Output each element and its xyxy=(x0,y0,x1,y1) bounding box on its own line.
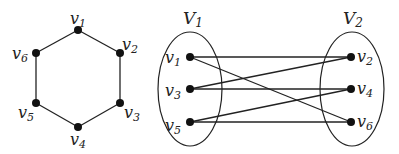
hex-edge-v6-v1 xyxy=(36,30,78,53)
hex-vertex-label-v3: v3 xyxy=(124,103,140,124)
bip-vertex-v3 xyxy=(186,85,194,93)
hex-vertex-v6 xyxy=(32,49,40,57)
bip-vertex-label-v2: v2 xyxy=(357,47,373,68)
bip-vertex-label-v1: v1 xyxy=(165,48,181,69)
hex-edge-v3-v4 xyxy=(78,103,120,127)
bipartite-graph: V1V2v1v3v5v2v4v6 xyxy=(158,8,384,146)
graph-figure: v1v2v3v4v5v6 V1V2v1v3v5v2v4v6 xyxy=(0,0,399,154)
bip-vertex-v4 xyxy=(347,85,355,93)
bip-vertex-v6 xyxy=(347,118,355,126)
bip-vertex-label-v3: v3 xyxy=(165,81,181,102)
bip-vertex-label-v4: v4 xyxy=(357,79,373,100)
bip-edge-v3-v2 xyxy=(190,57,351,89)
bip-edge-v5-v4 xyxy=(190,89,351,122)
bip-vertex-v5 xyxy=(186,118,194,126)
set-label-v1: V1 xyxy=(183,8,203,30)
hexagon-cycle-graph: v1v2v3v4v5v6 xyxy=(12,9,140,151)
hex-vertex-label-v2: v2 xyxy=(122,35,138,56)
hex-vertex-label-v4: v4 xyxy=(70,130,86,151)
bip-vertex-v2 xyxy=(347,53,355,61)
hex-vertex-v5 xyxy=(32,99,40,107)
hex-vertex-label-v5: v5 xyxy=(18,103,34,124)
set-label-v2: V2 xyxy=(343,8,363,30)
hex-edge-v1-v2 xyxy=(78,30,120,53)
hex-vertex-v3 xyxy=(116,99,124,107)
hex-edge-v4-v5 xyxy=(36,103,78,127)
bip-vertex-v1 xyxy=(186,53,194,61)
bip-vertex-label-v5: v5 xyxy=(165,116,181,137)
diagram-canvas: v1v2v3v4v5v6 V1V2v1v3v5v2v4v6 xyxy=(0,0,399,154)
bip-vertex-label-v6: v6 xyxy=(357,112,373,133)
hex-vertex-label-v1: v1 xyxy=(70,9,86,30)
hex-vertex-label-v6: v6 xyxy=(12,44,28,65)
